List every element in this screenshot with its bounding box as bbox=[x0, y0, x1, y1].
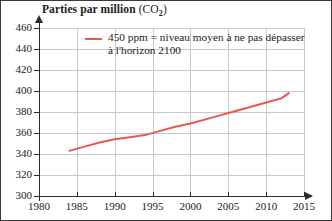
x-axis-tick-mark bbox=[77, 192, 78, 197]
y-axis-tick-mark bbox=[34, 175, 39, 176]
chart-title-paren-open: (CO bbox=[139, 3, 159, 15]
y-axis-tick-mark bbox=[34, 154, 39, 155]
y-axis-tick-label: 440 bbox=[1, 43, 32, 54]
series-line-co2 bbox=[69, 93, 289, 151]
y-axis-tick-mark bbox=[34, 28, 39, 29]
x-axis-tick-mark bbox=[266, 192, 267, 197]
chart-title-main: Parties par million bbox=[42, 3, 136, 15]
x-axis-tick-label: 2000 bbox=[170, 201, 210, 212]
legend-swatch-450ppm bbox=[85, 38, 102, 40]
x-axis-tick-label: 2015 bbox=[284, 201, 324, 212]
x-axis-tick-mark bbox=[228, 192, 229, 197]
x-axis-tick-mark bbox=[115, 192, 116, 197]
y-axis-tick-mark bbox=[34, 196, 39, 197]
y-axis-tick-mark bbox=[34, 112, 39, 113]
y-axis-tick-label: 360 bbox=[1, 127, 32, 138]
x-axis-tick-mark bbox=[304, 192, 305, 197]
y-axis-tick-label: 460 bbox=[1, 22, 32, 33]
y-axis-tick-label: 400 bbox=[1, 85, 32, 96]
x-axis-tick-label: 1995 bbox=[133, 201, 173, 212]
chart-figure: Parties par million (CO2) 450 ppm = nive… bbox=[0, 0, 332, 221]
x-axis-tick-mark bbox=[190, 192, 191, 197]
y-axis-tick-mark bbox=[34, 70, 39, 71]
x-axis-tick-mark bbox=[153, 192, 154, 197]
y-axis-tick-mark bbox=[34, 91, 39, 92]
chart-title: Parties par million (CO2) bbox=[42, 3, 167, 18]
x-axis-tick-label: 1990 bbox=[95, 201, 135, 212]
chart-title-paren-close: ) bbox=[163, 3, 167, 15]
x-axis-tick-label: 1980 bbox=[19, 201, 59, 212]
y-axis-arrow-icon bbox=[35, 15, 43, 23]
y-axis-tick-label: 340 bbox=[1, 148, 32, 159]
x-axis-tick-label: 2005 bbox=[208, 201, 248, 212]
legend-label-line1: 450 ppm = niveau moyen à ne pas bbox=[108, 31, 263, 43]
y-axis-tick-label: 420 bbox=[1, 64, 32, 75]
y-axis-tick-mark bbox=[34, 49, 39, 50]
y-axis-tick-label: 320 bbox=[1, 169, 32, 180]
y-axis-tick-label: 380 bbox=[1, 106, 32, 117]
x-axis-arrow-icon bbox=[305, 192, 313, 200]
x-axis-tick-label: 1985 bbox=[57, 201, 97, 212]
chart-legend: 450 ppm = niveau moyen à ne pas dépasser… bbox=[85, 31, 309, 57]
x-axis-tick-label: 2010 bbox=[246, 201, 286, 212]
y-axis-tick-mark bbox=[34, 133, 39, 134]
legend-label-450ppm: 450 ppm = niveau moyen à ne pas dépasser… bbox=[108, 31, 308, 57]
